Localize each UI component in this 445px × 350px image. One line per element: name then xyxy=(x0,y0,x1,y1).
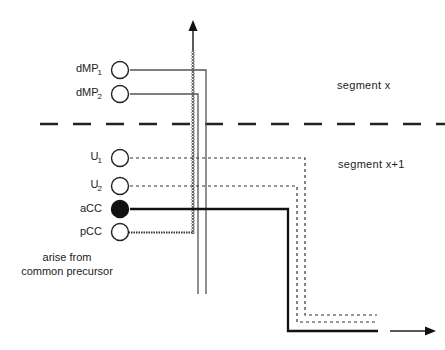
u2-axon xyxy=(130,186,377,322)
note-line-2: common precursor xyxy=(12,264,122,278)
label-u1: U1 xyxy=(42,150,102,165)
label-text: dMP xyxy=(76,86,99,98)
u2-cell-body xyxy=(112,178,129,195)
u1-cell-body xyxy=(112,150,129,167)
up-arrow-icon xyxy=(189,20,198,50)
label-u2: U2 xyxy=(42,178,102,193)
segment-x-label: segment x xyxy=(337,79,390,91)
label-subscript: 2 xyxy=(98,92,102,101)
label-pcc: pCC xyxy=(42,225,102,237)
label-text: pCC xyxy=(80,225,102,237)
dmp2-cell-body xyxy=(112,86,129,103)
label-dmp1: dMP1 xyxy=(42,62,102,77)
label-acc: aCC xyxy=(42,202,102,214)
precursor-note: arise from common precursor xyxy=(12,250,122,278)
label-text: dMP xyxy=(76,62,99,74)
note-line-1: arise from xyxy=(12,250,122,264)
pcc-cell-body xyxy=(112,224,129,241)
u1-axon xyxy=(130,158,377,315)
neuron-projection-diagram: dMP1 dMP2 U1 U2 aCC pCC arise from commo… xyxy=(0,0,445,350)
label-subscript: 2 xyxy=(98,184,102,193)
segment-x-plus-1-label: segment x+1 xyxy=(338,158,405,170)
label-text: aCC xyxy=(80,202,102,214)
right-arrow-icon xyxy=(390,327,436,336)
acc-axon xyxy=(130,209,378,331)
label-subscript: 1 xyxy=(98,68,102,77)
label-dmp2: dMP2 xyxy=(42,86,102,101)
diagram-lines xyxy=(0,0,445,350)
dmp1-cell-body xyxy=(112,62,129,79)
dmp1-axon xyxy=(130,70,206,294)
acc-cell-body xyxy=(112,201,129,218)
label-subscript: 1 xyxy=(98,156,102,165)
